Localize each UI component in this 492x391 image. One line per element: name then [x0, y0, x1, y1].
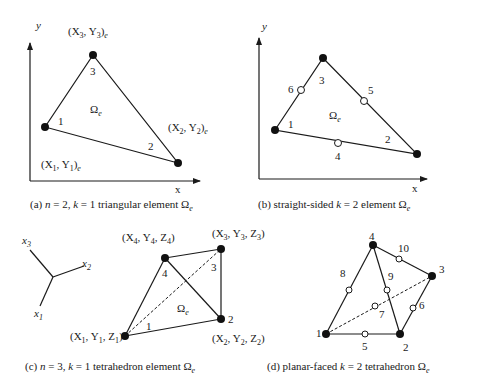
node-6-label: 6 [419, 299, 425, 311]
node-4-coordinates: (X4, Y4, Z4) [122, 231, 175, 246]
node-3-label: 3 [211, 261, 217, 273]
vertex-node-1 [41, 123, 49, 131]
node-2-label: 2 [385, 133, 391, 145]
omega-label: Ωe [177, 302, 189, 317]
vertex-node-4 [369, 241, 377, 249]
node-5-label: 5 [368, 84, 374, 96]
panel-a-triangular-element: y x 1 2 3 Ωe (X3, Y3)e (X2, Y2)e (X1, Y1… [30, 19, 208, 213]
node-7-label: 7 [379, 308, 385, 320]
omega-label: Ωe [90, 103, 102, 118]
panel-d-quadratic-tetrahedron: 1 2 3 4 5 6 7 8 9 10 (d) planar-faced k … [267, 230, 445, 375]
vertex-node-3 [89, 51, 97, 59]
node-1-label: 1 [316, 327, 322, 339]
node-4-label: 4 [335, 150, 341, 162]
midside-node-8 [346, 287, 352, 293]
omega-label: Ωe [329, 109, 341, 124]
x1-axis-label: x1 [33, 307, 43, 322]
node-4-label: 4 [162, 267, 168, 279]
node-2-label: 2 [228, 313, 234, 325]
vertex-node-3 [319, 54, 327, 62]
midside-node-9 [384, 287, 390, 293]
midside-node-6 [298, 87, 305, 94]
node-9-label: 9 [388, 270, 394, 282]
node-2-coordinates: (X2, Y2)e [168, 121, 208, 136]
node-2-coordinates: (X2, Y2, Z2) [212, 332, 265, 347]
node-1-label: 1 [146, 320, 152, 332]
vertex-node-1 [322, 330, 330, 338]
node-3-coordinates: (X3, Y3, Z3) [212, 227, 265, 242]
triangle-element [45, 55, 178, 163]
node-5-label: 5 [362, 340, 368, 352]
node-3-label: 3 [439, 263, 445, 275]
caption-d: (d) planar-faced k = 2 tetrahedron Ωe [267, 360, 430, 375]
node-1-coordinates: (X1, Y1, Z1) [70, 330, 123, 345]
edge-1-2 [125, 319, 221, 336]
y-axis-label: y [261, 20, 267, 32]
midside-node-6 [410, 305, 416, 311]
hidden-edge-1-3 [125, 249, 221, 336]
node-6-label: 6 [288, 83, 294, 95]
midside-node-10 [396, 256, 402, 262]
y-axis-label: y [35, 19, 41, 31]
node-2-label: 2 [148, 140, 154, 152]
vertex-node-2 [217, 315, 225, 323]
x-axis-label: x [412, 182, 418, 194]
node-1-label: 1 [288, 118, 294, 130]
node-8-label: 8 [340, 267, 346, 279]
x2-axis [53, 266, 84, 277]
midside-node-4 [335, 140, 342, 147]
x-axis-label: x [175, 183, 181, 195]
node-3-label: 3 [319, 74, 325, 86]
midside-node-5 [362, 331, 368, 337]
caption-b: (b) straight-sided k = 2 element Ωe [258, 198, 411, 213]
x2-axis-label: x2 [81, 257, 91, 272]
vertex-node-2 [396, 330, 404, 338]
node-1-coordinates: (X1, Y1)e [41, 158, 81, 173]
triangle-element [275, 58, 417, 154]
vertex-node-1 [271, 126, 279, 134]
vertex-node-3 [217, 245, 225, 253]
vertex-node-3 [428, 272, 436, 280]
x3-axis-label: x3 [21, 234, 31, 249]
edge-4-3 [165, 249, 221, 258]
midside-node-5 [361, 98, 368, 105]
vertex-node-2 [413, 150, 421, 158]
vertex-node-2 [174, 159, 182, 167]
finite-element-figure: y x 1 2 3 Ωe (X3, Y3)e (X2, Y2)e (X1, Y1… [0, 0, 492, 391]
x1-axis [40, 277, 53, 306]
edge-1-4 [125, 258, 165, 336]
node-1-label: 1 [58, 115, 64, 127]
caption-c: (c) n = 3, k = 1 tetrahedron element Ωe [25, 360, 196, 375]
panel-b-quadratic-triangle: y x 1 2 3 4 5 6 Ωe (b) straight-sided k … [258, 20, 427, 213]
node-10-label: 10 [398, 242, 410, 254]
node-2-label: 2 [403, 341, 409, 353]
caption-a: (a) n = 2, k = 1 triangular element Ωe [30, 198, 193, 213]
node-3-coordinates: (X3, Y3)e [68, 25, 108, 40]
x3-axis [30, 250, 53, 277]
vertex-node-4 [161, 254, 169, 262]
node-4-label: 4 [369, 230, 375, 242]
panel-c-linear-tetrahedron: x3 x2 x1 1 2 3 4 Ωe (X1, Y1, Z1) (X2, Y2… [21, 227, 265, 375]
midside-node-7 [372, 303, 378, 309]
node-3-label: 3 [90, 65, 96, 77]
